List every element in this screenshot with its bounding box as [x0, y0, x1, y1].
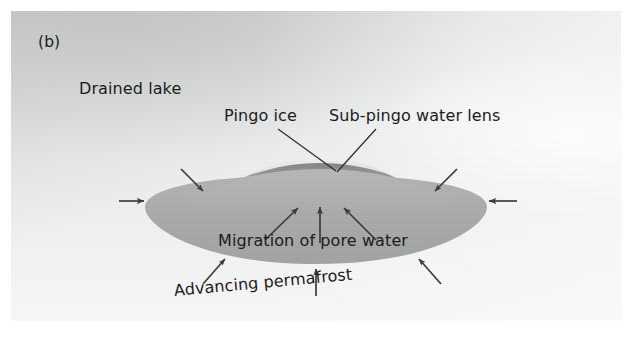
figure-plate: (b) Drained lake Pingo ice Sub-pingo wat… — [11, 11, 621, 321]
permafrost-arrow-lower-right — [419, 259, 441, 284]
label-drained-lake: Drained lake — [79, 79, 181, 98]
label-pingo-ice: Pingo ice — [224, 106, 297, 125]
label-migration-of-pore-water: Migration of pore water — [218, 231, 408, 250]
figure-panel-b: (b) Drained lake Pingo ice Sub-pingo wat… — [0, 0, 639, 346]
label-sub-pingo-water-lens: Sub-pingo water lens — [329, 106, 500, 125]
panel-letter: (b) — [38, 33, 60, 51]
